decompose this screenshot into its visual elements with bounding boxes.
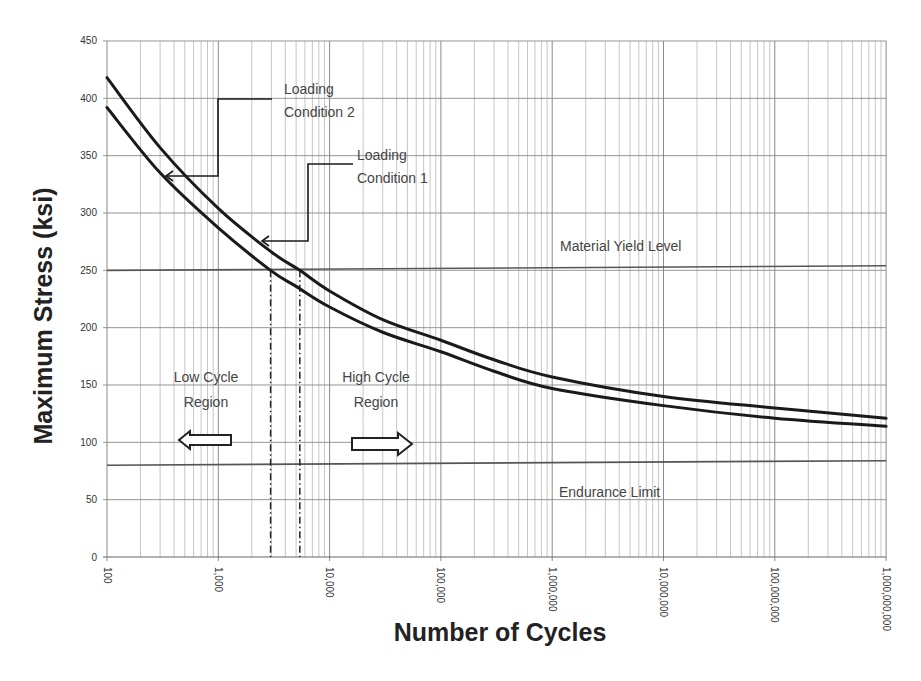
lc2-leader — [166, 99, 272, 181]
lc1-label-line2: Condition 1 — [357, 170, 428, 186]
y-tick-label: 50 — [86, 494, 98, 505]
endurance-label: Endurance Limit — [559, 484, 660, 500]
x-tick-label: 10,000 — [324, 567, 335, 598]
x-tick-label: 100 — [102, 567, 113, 584]
y-axis-ticks: 050100150200250300350400450 — [80, 35, 97, 562]
y-tick-label: 150 — [80, 379, 97, 390]
y-tick-label: 0 — [91, 552, 97, 563]
x-tick-label: 100,000 — [435, 567, 446, 604]
y-tick-label: 200 — [80, 322, 97, 333]
yield-label: Material Yield Level — [560, 238, 681, 254]
lc1-label-line1: Loading — [357, 147, 407, 163]
y-tick-label: 450 — [80, 35, 97, 46]
high-cycle-label-line1: High Cycle — [342, 369, 410, 385]
x-tick-label: 1,000,000 — [547, 567, 558, 612]
x-tick-label: 1,000,000,000 — [881, 567, 892, 631]
x-tick-label: 100,000,000 — [769, 567, 780, 623]
y-axis-title: Maximum Stress (ksi) — [29, 187, 57, 444]
high-cycle-label-line2: Region — [354, 394, 398, 410]
y-tick-label: 250 — [80, 265, 97, 276]
major-gridlines — [103, 41, 886, 561]
low-cycle-arrow-icon — [179, 431, 231, 449]
lc2-label-line1: Loading — [284, 81, 334, 97]
low-cycle-label-line1: Low Cycle — [174, 369, 239, 385]
sn-fatigue-chart: 050100150200250300350400450 1001,00010,0… — [0, 0, 921, 681]
x-tick-label: 1,000 — [213, 567, 224, 592]
curve-loading-condition-1 — [107, 78, 886, 419]
x-axis-title: Number of Cycles — [394, 618, 607, 646]
lc1-leader — [262, 164, 353, 246]
minor-gridlines — [141, 41, 882, 557]
high-cycle-arrow-icon — [352, 433, 412, 455]
lc2-label-line2: Condition 2 — [284, 104, 355, 120]
y-tick-label: 300 — [80, 207, 97, 218]
x-tick-label: 10,000,000 — [658, 567, 669, 617]
y-tick-label: 100 — [80, 437, 97, 448]
y-tick-label: 350 — [80, 150, 97, 161]
y-tick-label: 400 — [80, 93, 97, 104]
low-cycle-label-line2: Region — [184, 394, 228, 410]
